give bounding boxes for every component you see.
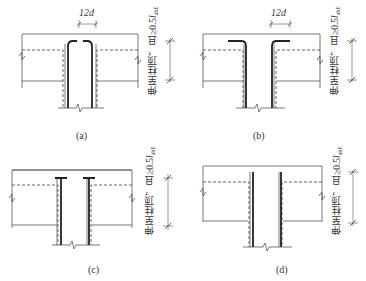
note-text: 伸至柱顶，且≥0.5 <box>148 18 158 95</box>
note-text: 伸至柱顶，且≥0.5 <box>330 18 340 95</box>
note-text: 伸至柱顶，且≥0.5 <box>332 158 342 235</box>
panel-a-vertical-note: 伸至柱顶，且≥0.5labE <box>146 6 160 95</box>
note-symbol: l <box>145 155 155 158</box>
note-subscript: abE <box>153 6 159 15</box>
panel-d-caption: (d) <box>276 264 288 275</box>
note-symbol: l <box>330 15 340 18</box>
panel-b-dim-label-svg: 12d <box>271 7 287 18</box>
figure-canvas: 12d 12d <box>0 0 366 281</box>
panel-a-dim-label-svg: 12d <box>79 7 95 18</box>
panel-a-caption: (a) <box>76 130 87 141</box>
note-text: 伸至柱顶，且≥0.5 <box>145 158 155 235</box>
panel-d-vertical-note: 伸至柱顶，且≥0.5labE <box>330 146 344 235</box>
note-symbol: l <box>332 155 342 158</box>
panel-b-vertical-note: 伸至柱顶，且≥0.5labE <box>328 6 342 95</box>
panel-b-caption: (b) <box>253 130 265 141</box>
note-subscript: abE <box>337 146 343 155</box>
note-subscript: abE <box>335 6 341 15</box>
panel-c-vertical-note: 伸至柱顶，且≥0.5labE <box>143 146 157 235</box>
panel-c-caption: (c) <box>88 264 99 275</box>
note-symbol: l <box>148 15 158 18</box>
note-subscript: abE <box>150 146 156 155</box>
